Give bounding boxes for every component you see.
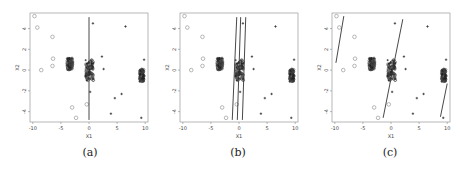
- y-tick-label: -2: [323, 88, 329, 93]
- separator-line: [383, 19, 403, 118]
- circle-point: [224, 116, 228, 120]
- caption-c: (c): [314, 146, 460, 159]
- circle-point: [70, 106, 74, 110]
- x-tick-label: -10: [331, 125, 339, 131]
- circle-point: [335, 14, 339, 18]
- y-tick-label: -2: [21, 88, 27, 93]
- circle-point: [341, 68, 345, 72]
- x-tick-label: 5: [266, 125, 269, 131]
- y-tick-label: -2: [171, 88, 177, 93]
- x-tick-label: -5: [58, 125, 63, 131]
- circle-point: [51, 35, 55, 39]
- circle-point: [220, 106, 224, 110]
- panel-b: -10-50510420-2-4X1X2 (b): [150, 0, 302, 171]
- x-tick-label: 0: [87, 125, 90, 131]
- plus-point: [110, 112, 112, 114]
- y-tick-label: 0: [171, 69, 177, 72]
- panel-a: -10-50510420-2-4X1X2 (a): [0, 0, 152, 171]
- x-axis-label: X1: [236, 133, 243, 139]
- panel-c: -10-50510420-2-4X1X2 (c): [302, 0, 454, 171]
- x-tick-label: 10: [292, 125, 298, 131]
- x-tick-label: 0: [237, 125, 240, 131]
- x-axis-label: X1: [86, 133, 93, 139]
- x-axis-label: X1: [388, 133, 395, 139]
- plus-point: [143, 59, 145, 61]
- y-tick-label: 4: [323, 27, 329, 30]
- y-tick-label: 4: [171, 27, 177, 30]
- plus-point: [274, 25, 276, 27]
- circle-point: [39, 68, 43, 72]
- plus-point: [422, 93, 424, 95]
- plus-point: [252, 68, 254, 70]
- plus-point: [140, 117, 142, 119]
- circle-point: [33, 14, 37, 18]
- plus-point: [391, 91, 393, 93]
- circle-point: [186, 26, 190, 30]
- plus-point: [293, 59, 295, 61]
- x-tick-label: 0: [389, 125, 392, 131]
- y-tick-label: 0: [21, 69, 27, 72]
- plus-point: [102, 68, 104, 70]
- plus-point: [92, 22, 94, 24]
- plus-point: [124, 25, 126, 27]
- plus-point: [416, 97, 418, 99]
- y-axis-label: X2: [316, 64, 322, 71]
- circle-point: [85, 103, 89, 107]
- plus-point: [445, 59, 447, 61]
- plus-point: [242, 22, 244, 24]
- circle-point: [36, 26, 40, 30]
- x-tick-label: -5: [360, 125, 365, 131]
- plus-point: [442, 117, 444, 119]
- plus-point: [404, 68, 406, 70]
- caption-b: (b): [162, 146, 314, 159]
- circle-point: [353, 35, 357, 39]
- circle-point: [387, 103, 391, 107]
- y-tick-label: 4: [21, 27, 27, 30]
- circle-point: [189, 68, 193, 72]
- plus-point: [251, 55, 253, 57]
- circle-point: [201, 35, 205, 39]
- caption-a: (a): [14, 146, 166, 159]
- plus-point: [394, 22, 396, 24]
- circle-point: [51, 57, 55, 61]
- plus-point: [120, 93, 122, 95]
- circle-point: [338, 26, 342, 30]
- plus-point: [239, 91, 241, 93]
- circle-point: [51, 64, 55, 68]
- x-tick-label: -10: [179, 125, 187, 131]
- plus-point: [270, 93, 272, 95]
- x-tick-label: 5: [116, 125, 119, 131]
- plus-point: [264, 97, 266, 99]
- circle-point: [183, 14, 187, 18]
- y-tick-label: -4: [171, 109, 177, 114]
- separator-line: [440, 84, 447, 117]
- y-tick-label: 0: [323, 69, 329, 72]
- circle-point: [372, 106, 376, 110]
- y-tick-label: 2: [171, 48, 177, 51]
- circle-point: [201, 57, 205, 61]
- separator-line: [336, 16, 344, 63]
- plus-point: [290, 117, 292, 119]
- x-tick-label: -5: [208, 125, 213, 131]
- plus-point: [101, 55, 103, 57]
- y-tick-label: -4: [323, 109, 329, 114]
- plus-point: [412, 112, 414, 114]
- plus-point: [114, 97, 116, 99]
- y-axis-label: X2: [164, 64, 170, 71]
- x-tick-label: 10: [444, 125, 450, 131]
- y-axis-label: X2: [14, 64, 20, 71]
- circle-point: [376, 116, 380, 120]
- y-tick-label: -4: [21, 109, 27, 114]
- plus-point: [403, 55, 405, 57]
- x-tick-label: 10: [142, 125, 148, 131]
- circle-point: [74, 116, 78, 120]
- x-tick-label: 5: [418, 125, 421, 131]
- circle-point: [201, 64, 205, 68]
- y-tick-label: 2: [323, 48, 329, 51]
- x-tick-label: -10: [29, 125, 37, 131]
- plus-point: [260, 112, 262, 114]
- circle-point: [353, 57, 357, 61]
- y-tick-label: 2: [21, 48, 27, 51]
- plus-point: [426, 25, 428, 27]
- circle-point: [353, 64, 357, 68]
